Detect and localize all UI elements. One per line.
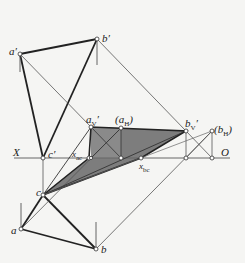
edge-a-c (21, 195, 43, 229)
label-a-h: (aH) (115, 114, 133, 128)
label-a-prime: a′ (9, 46, 17, 57)
edge-a-b (21, 229, 96, 249)
label-axis-x: X (13, 147, 20, 158)
ray-a-prime (20, 54, 91, 127)
edge-a-prime-b-prime (20, 39, 97, 54)
label-axis-o: O (221, 147, 229, 158)
label-b-v-prime: bV′ (185, 118, 198, 132)
edge-b-prime-c-prime (43, 39, 97, 158)
projection-diagram: a′ b′ c′ aV′ (aH) bV′ (bH) xac xbc c a b… (0, 0, 245, 263)
edge-b-c (43, 195, 96, 249)
label-c-prime: c′ (48, 149, 55, 160)
label-a: a (11, 225, 17, 236)
label-c: c (36, 187, 41, 198)
label-b-h: (bH) (214, 124, 232, 138)
label-a-v-prime: aV′ (86, 114, 99, 128)
label-b-prime: b′ (102, 33, 110, 44)
ray-b-prime (97, 39, 186, 131)
label-x-ac: xac (72, 150, 82, 162)
diagram-drawing (0, 0, 245, 263)
label-b: b (101, 244, 107, 255)
edge-a-prime-c-prime (20, 54, 43, 158)
label-x-bc: xbc (139, 162, 150, 174)
